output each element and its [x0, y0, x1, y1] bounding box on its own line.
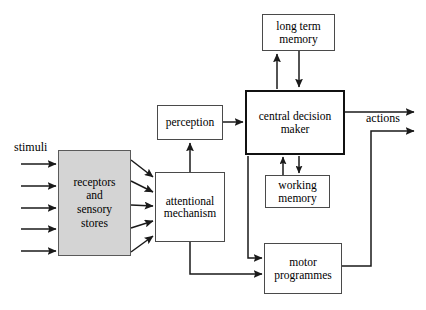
motor-to-actions-arrow	[342, 131, 414, 266]
box-motor-programmes[interactable]: motor programmes	[264, 243, 342, 294]
label-stimuli: stimuli	[14, 140, 47, 155]
label-actions: actions	[366, 111, 400, 126]
box-attentional-mechanism[interactable]: attentional mechanism	[155, 172, 225, 242]
receptors-to-attention-arrows	[131, 160, 153, 252]
stimuli-input-arrows	[21, 164, 56, 251]
box-receptors-and-sensory-stores[interactable]: receptors and sensory stores	[58, 150, 131, 256]
box-wm-label: working memory	[276, 179, 318, 204]
box-receptors-label: receptors and sensory stores	[71, 176, 117, 230]
box-ltm-label: long term memory	[274, 20, 322, 45]
box-working-memory[interactable]: working memory	[265, 175, 330, 208]
box-long-term-memory[interactable]: long term memory	[262, 14, 335, 51]
diagram-canvas: receptors and sensory stores attentional…	[0, 0, 426, 310]
box-cdm-label: central decision maker	[257, 110, 333, 135]
box-motor-label: motor programmes	[272, 256, 333, 281]
box-central-decision-maker[interactable]: central decision maker	[245, 90, 345, 155]
box-attentional-label: attentional mechanism	[162, 195, 218, 220]
box-perception-label: perception	[164, 116, 217, 128]
box-perception[interactable]: perception	[157, 105, 223, 140]
cdm-to-motor-arrow	[248, 156, 262, 258]
